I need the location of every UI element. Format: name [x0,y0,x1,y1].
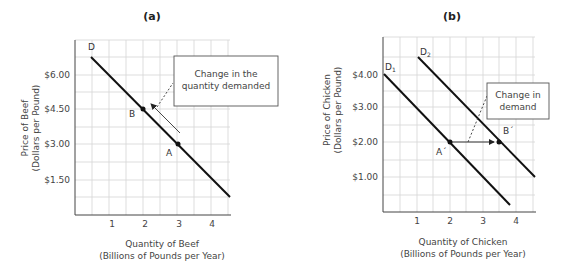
chart-a-xtick: 3 [176,219,182,229]
chart-a: (a) $6.00 $4.50 $3.00 $1.50 [20,10,278,261]
point-b-label: B [129,109,135,119]
chart-a-ytick: $6.00 [44,70,70,80]
chart-b-ytick: $2.00 [352,137,378,147]
curve-label-d: D [88,42,95,52]
point-a-prime [448,140,453,145]
chart-b-title: (b) [443,10,461,23]
callout-a-line1: Change in the [194,69,258,79]
chart-b-xtick: 4 [513,216,519,226]
chart-a-ytick: $4.50 [44,104,70,114]
point-a-prime-label: A´ [436,147,447,157]
svg-text:Price of Beef: Price of Beef [20,99,30,157]
chart-b: (b) $4.00 $3.00 $2.00 $1.00 [322,10,549,259]
callout-b-line1: Change in [495,90,541,100]
chart-a-ytick: $3.00 [44,139,70,149]
chart-b-xtick: 3 [480,216,486,226]
chart-b-ytick: $1.00 [352,172,378,182]
chart-a-xtick: 2 [142,219,148,229]
svg-text:Price of Chicken: Price of Chicken [322,74,332,146]
chart-a-title: (a) [143,10,160,23]
callout-leader-a [157,83,173,107]
point-a [176,142,181,147]
callout-leader-b [468,96,487,142]
chart-a-y-label: Price of Beef (Dollars per Pound) [20,85,41,172]
point-b-prime-label: B´ [503,126,514,136]
point-b [141,107,146,112]
chart-b-ytick: $3.00 [352,102,378,112]
chart-b-y-label: Price of Chicken (Dollars per Pound) [322,67,343,154]
callout-b-line2: demand [500,102,537,112]
chart-b-ytick: $4.00 [352,70,378,80]
chart-b-grid [383,37,535,212]
curve-label-d1: D1 [385,62,396,73]
point-b-prime [497,140,502,145]
chart-b-x-label-sub: (Billions of Pounds per Year) [400,249,526,259]
chart-b-xtick: 2 [447,216,453,226]
chart-a-x-label-sub: (Billions of Pounds per Year) [99,251,225,261]
svg-text:(Dollars per Pound): (Dollars per Pound) [31,85,41,172]
curve-label-d2: D2 [420,47,431,58]
chart-a-xtick: 4 [209,219,215,229]
chart-b-xtick: 1 [414,216,420,226]
chart-a-ytick: $1.50 [44,175,70,185]
figure-canvas: (a) $6.00 $4.50 $3.00 $1.50 [0,0,564,276]
callout-a-line2: quantity demanded [182,81,271,91]
chart-b-x-label: Quantity of Chicken [419,237,508,247]
chart-a-x-label: Quantity of Beef [125,239,200,249]
chart-a-xtick: 1 [109,219,115,229]
movement-arrow [151,104,180,133]
callout-box-b [487,83,549,119]
svg-text:(Dollars per Pound): (Dollars per Pound) [333,67,343,154]
point-a-label: A [166,148,173,158]
